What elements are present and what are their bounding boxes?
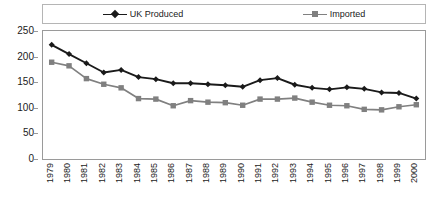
y-tick-label: 100: [17, 103, 34, 113]
square-icon: [312, 11, 318, 17]
x-tick-label: 1991: [254, 163, 263, 183]
data-point-diamond-icon: [222, 82, 228, 88]
y-tick-mark: [34, 57, 38, 58]
data-point-square-icon: [205, 99, 210, 104]
y-tick-mark: [34, 31, 38, 32]
plot-svg: [43, 31, 425, 159]
data-point-square-icon: [171, 103, 176, 108]
data-point-square-icon: [136, 96, 141, 101]
data-point-square-icon: [344, 103, 349, 108]
data-point-diamond-icon: [327, 86, 333, 92]
x-tick-label: 2000: [410, 163, 419, 183]
y-tick-label: 150: [17, 77, 34, 87]
data-point-diamond-icon: [292, 82, 298, 88]
data-point-square-icon: [257, 96, 262, 101]
x-axis: 1979198019811982198319841985198619871988…: [42, 161, 426, 202]
series-uk-produced: [49, 42, 420, 102]
x-tick-label: 1993: [289, 163, 298, 183]
x-tick-label: 1984: [133, 163, 142, 183]
data-point-square-icon: [414, 102, 419, 107]
data-point-square-icon: [309, 99, 314, 104]
x-tick-label: 1994: [306, 163, 315, 183]
data-point-diamond-icon: [344, 84, 350, 90]
data-point-square-icon: [327, 103, 332, 108]
diamond-icon: [110, 9, 118, 17]
data-point-square-icon: [49, 60, 54, 65]
legend-item-imported: Imported: [303, 10, 366, 19]
x-tick-label: 1985: [150, 163, 159, 183]
x-tick-label: 1992: [271, 163, 280, 183]
data-point-diamond-icon: [274, 75, 280, 81]
chart-legend: UK Produced Imported: [42, 4, 426, 24]
data-point-square-icon: [66, 63, 71, 68]
data-point-diamond-icon: [170, 80, 176, 86]
legend-marker-square-icon: [303, 10, 327, 19]
data-point-diamond-icon: [413, 96, 419, 102]
y-tick-label: 50: [23, 128, 34, 138]
data-point-diamond-icon: [309, 85, 315, 91]
legend-label-uk-produced: UK Produced: [130, 10, 184, 19]
data-point-diamond-icon: [153, 76, 159, 82]
x-tick-label: 1999: [393, 163, 402, 183]
x-tick-label: 1981: [80, 163, 89, 183]
x-tick-label: 1995: [324, 163, 333, 183]
x-tick-label: 1988: [202, 163, 211, 183]
data-point-square-icon: [118, 85, 123, 90]
x-tick-label: 1987: [185, 163, 194, 183]
x-tick-label: 1997: [358, 163, 367, 183]
legend-marker-diamond-icon: [103, 10, 127, 19]
data-point-square-icon: [379, 107, 384, 112]
x-tick-label: 1979: [46, 163, 55, 183]
x-tick-label: 1983: [115, 163, 124, 183]
y-tick-mark: [34, 159, 38, 160]
data-point-square-icon: [223, 100, 228, 105]
data-point-diamond-icon: [361, 86, 367, 92]
data-point-square-icon: [240, 103, 245, 108]
data-point-square-icon: [101, 82, 106, 87]
line-chart: UK Produced Imported 250200150100500 197…: [0, 0, 434, 202]
x-tick-label: 1996: [341, 163, 350, 183]
data-point-diamond-icon: [240, 84, 246, 90]
y-axis: 250200150100500: [0, 30, 38, 160]
x-tick-label: 1989: [219, 163, 228, 183]
data-point-diamond-icon: [396, 90, 402, 96]
data-point-square-icon: [396, 104, 401, 109]
x-tick-label: 1982: [98, 163, 107, 183]
y-tick-label: 200: [17, 52, 34, 62]
y-tick-label: 250: [17, 26, 34, 36]
legend-label-imported: Imported: [330, 10, 366, 19]
y-tick-mark: [34, 82, 38, 83]
data-point-diamond-icon: [188, 80, 194, 86]
data-point-diamond-icon: [118, 67, 124, 73]
data-point-square-icon: [188, 98, 193, 103]
x-tick-label: 1980: [63, 163, 72, 183]
x-tick-label: 1998: [376, 163, 385, 183]
series-line: [52, 45, 417, 99]
x-tick-label: 1986: [167, 163, 176, 183]
x-tick-label: 1990: [237, 163, 246, 183]
data-point-diamond-icon: [136, 74, 142, 80]
data-point-square-icon: [84, 76, 89, 81]
data-point-square-icon: [362, 107, 367, 112]
y-tick-mark: [34, 108, 38, 109]
data-point-square-icon: [275, 96, 280, 101]
data-point-diamond-icon: [379, 89, 385, 95]
data-point-square-icon: [153, 96, 158, 101]
y-tick-mark: [34, 133, 38, 134]
legend-item-uk-produced: UK Produced: [103, 10, 184, 19]
data-point-diamond-icon: [257, 77, 263, 83]
plot-area: [42, 30, 426, 160]
data-point-square-icon: [292, 95, 297, 100]
data-point-diamond-icon: [205, 81, 211, 87]
